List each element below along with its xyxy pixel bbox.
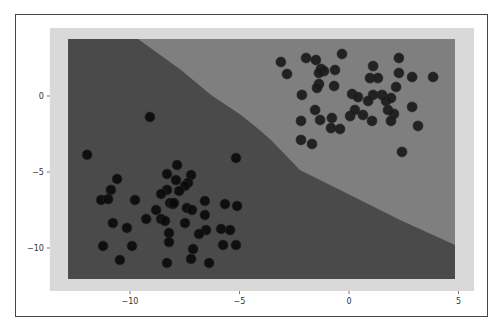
data-point — [180, 218, 190, 228]
data-point — [368, 61, 378, 71]
data-point — [82, 150, 92, 160]
data-point — [204, 258, 214, 268]
data-point — [172, 160, 182, 170]
data-point — [353, 92, 363, 102]
data-point — [407, 102, 417, 112]
data-point — [216, 224, 226, 234]
data-point — [394, 68, 404, 78]
data-point — [315, 115, 325, 125]
data-point — [145, 112, 155, 122]
data-point — [162, 169, 172, 179]
data-point — [127, 241, 137, 251]
data-point — [225, 225, 235, 235]
data-point — [194, 229, 204, 239]
y-tick-label: −5 — [32, 168, 44, 177]
data-point — [200, 196, 210, 206]
data-point — [413, 121, 423, 131]
data-point — [307, 139, 317, 149]
data-point — [156, 189, 166, 199]
data-point — [232, 201, 242, 211]
data-point — [187, 205, 197, 215]
data-point — [103, 194, 113, 204]
y-tick-label: 0 — [39, 92, 44, 101]
data-point — [282, 69, 292, 79]
data-point — [337, 49, 347, 59]
data-point — [310, 105, 320, 115]
data-point — [397, 147, 407, 157]
data-point — [314, 68, 324, 78]
x-tick-label: 5 — [456, 297, 461, 306]
y-tick-label: −10 — [27, 244, 44, 253]
data-point — [169, 198, 179, 208]
data-point — [231, 240, 241, 250]
data-point — [108, 218, 118, 228]
data-point — [428, 72, 438, 82]
data-point — [363, 96, 373, 106]
data-point — [186, 254, 196, 264]
data-point — [373, 73, 383, 83]
data-point — [335, 124, 345, 134]
data-point — [301, 53, 311, 63]
data-point — [231, 153, 241, 163]
data-point — [162, 258, 172, 268]
data-point — [367, 116, 377, 126]
data-point — [276, 57, 286, 67]
data-point — [106, 185, 116, 195]
data-point — [112, 174, 122, 184]
data-point — [296, 116, 306, 126]
data-point — [326, 123, 336, 133]
data-point — [220, 199, 230, 209]
data-point — [188, 244, 198, 254]
data-point — [164, 237, 174, 247]
data-point — [160, 216, 170, 226]
data-point — [115, 255, 125, 265]
data-point — [312, 83, 322, 93]
data-point — [218, 240, 228, 250]
data-point — [386, 93, 396, 103]
x-tick-label: −5 — [234, 297, 246, 306]
data-point — [329, 81, 339, 91]
data-point — [98, 241, 108, 251]
data-point — [200, 210, 210, 220]
data-point — [297, 90, 307, 100]
data-point — [391, 82, 401, 92]
data-point — [330, 65, 340, 75]
data-point — [164, 228, 174, 238]
data-point — [130, 195, 140, 205]
data-point — [311, 55, 321, 65]
x-tick-label: −10 — [122, 297, 139, 306]
data-point — [174, 186, 184, 196]
data-point — [394, 53, 404, 63]
data-point — [358, 110, 368, 120]
data-point — [386, 116, 396, 126]
data-point — [122, 223, 132, 233]
data-point — [141, 214, 151, 224]
data-point — [407, 72, 417, 82]
data-point — [171, 175, 181, 185]
scatter-plot: −10−505 0−5−10 — [0, 0, 502, 329]
data-point — [327, 113, 337, 123]
x-tick-label: 0 — [346, 297, 351, 306]
data-point — [151, 205, 161, 215]
data-point — [296, 135, 306, 145]
